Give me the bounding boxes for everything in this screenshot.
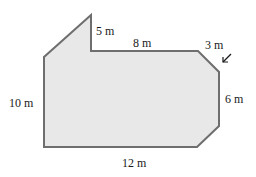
label-right-edge: 6 m [225,92,244,106]
arrow-down-left-icon [223,54,231,62]
floor-plan-diagram: 5 m 8 m 3 m 6 m 10 m 12 m [0,0,256,177]
floor-shape [44,15,219,147]
label-top-edge: 8 m [133,36,152,50]
label-bottom-edge: 12 m [122,156,147,170]
label-left-edge: 10 m [9,96,34,110]
label-top-spike: 5 m [96,24,115,38]
label-corner-cut: 3 m [205,38,224,52]
